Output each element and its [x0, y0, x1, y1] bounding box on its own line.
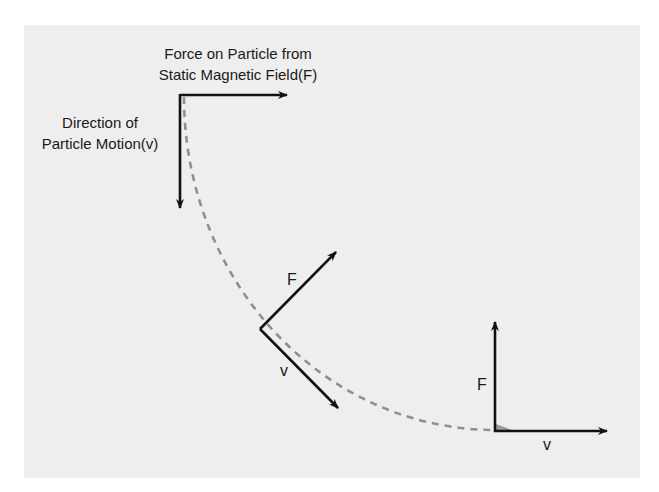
end-corner-shade: [496, 424, 512, 430]
force-label-line2: Static Magnetic Field(F): [138, 64, 338, 85]
motion-label-line1: Direction of: [25, 112, 175, 133]
middle-force-arrow: [260, 252, 336, 329]
force-label-line1: Force on Particle from: [138, 43, 338, 64]
motion-label-line2: Particle Motion(v): [25, 133, 175, 154]
end-vectors: [494, 322, 607, 432]
particle-trajectory: [184, 97, 495, 430]
end-velocity-label: v: [543, 436, 551, 454]
middle-force-label: F: [287, 271, 297, 289]
middle-velocity-label: v: [280, 362, 288, 380]
motion-label: Direction of Particle Motion(v): [25, 112, 175, 154]
middle-vectors: [260, 252, 338, 408]
middle-velocity-arrow: [260, 329, 338, 408]
force-label: Force on Particle from Static Magnetic F…: [138, 43, 338, 85]
end-force-label: F: [477, 376, 487, 394]
